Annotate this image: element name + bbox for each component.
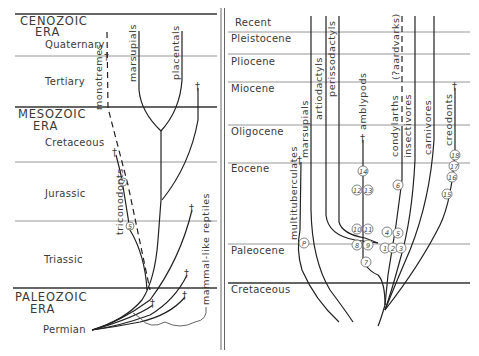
period-triassic: Triassic xyxy=(43,254,83,265)
mammal-phylogeny-diagram: CENOZOIC ERA Quaternary Tertiary MESOZOI… xyxy=(0,0,479,356)
epoch-pliocene: Pliocene xyxy=(231,56,275,67)
marker-16-label: 16 xyxy=(448,174,456,182)
label-insectivores: insectivores xyxy=(402,94,413,158)
left-panel: CENOZOIC ERA Quaternary Tertiary MESOZOI… xyxy=(13,14,217,335)
label-creodonts: creodonts xyxy=(443,93,454,146)
extinct-branch xyxy=(162,88,198,200)
label-perissodactyls: perissodactyls xyxy=(326,20,337,97)
label-triconodonts: triconodonts xyxy=(114,168,125,235)
marsupials-branch xyxy=(139,31,161,131)
placental-root xyxy=(378,305,385,326)
period-permian: Permian xyxy=(43,324,86,335)
marker-13-label: 13 xyxy=(364,187,372,195)
label-carnivores: carnivores xyxy=(422,100,433,155)
era-mesozoic-suffix: ERA xyxy=(33,119,58,133)
marker-4-label: 4 xyxy=(385,229,389,237)
label-monotremes: monotremes xyxy=(93,44,104,110)
marker-3-label: 3 xyxy=(399,245,403,253)
label-condylarths: condylarths xyxy=(389,95,400,157)
label-aardvarks: (?aardvarks) xyxy=(390,13,401,80)
era-paleozoic-suffix: ERA xyxy=(30,302,55,316)
epoch-pleistocene: Pleistocene xyxy=(231,33,291,44)
epoch-eocene: Eocene xyxy=(231,163,269,174)
label-amblypods: amblypods xyxy=(357,72,368,130)
period-cretaceous: Cretaceous xyxy=(45,137,104,148)
epoch-recent: Recent xyxy=(235,17,271,28)
label-artiodactyls: artiodactyls xyxy=(313,57,324,120)
epoch-miocene: Miocene xyxy=(231,83,275,94)
period-jurassic: Jurassic xyxy=(44,188,86,199)
extinction-mark: † xyxy=(189,203,194,214)
marker-6-label: 6 xyxy=(396,182,400,190)
extinction-mark: † xyxy=(182,290,187,301)
marker-1-label: 1 xyxy=(383,245,387,253)
label-marsupials-right: marsupials xyxy=(299,100,310,158)
marker-11-label: 11 xyxy=(364,226,372,234)
extinction-mark: † xyxy=(360,133,365,144)
epoch-paleocene: Paleocene xyxy=(231,245,285,256)
epoch-oligocene: Oligocene xyxy=(231,126,284,137)
marker-12-label: 12 xyxy=(353,187,361,195)
marker-8-label: 8 xyxy=(355,242,359,250)
label-mammal-like-reptiles: mammal-like reptiles xyxy=(200,193,211,305)
marker-5-right-label: 5 xyxy=(396,230,400,238)
marker-2-label: 2 xyxy=(391,245,395,253)
extinction-mark: † xyxy=(452,81,457,92)
extinction-mark: † xyxy=(112,147,117,158)
extinction-mark: † xyxy=(195,81,200,92)
extinction-mark: † xyxy=(184,268,189,279)
extinction-mark: † xyxy=(150,298,155,309)
label-placentals: placentals xyxy=(170,25,181,80)
era-cenozoic-suffix: ERA xyxy=(35,25,60,39)
epoch-cretaceous: Cretaceous xyxy=(231,284,290,295)
label-marsupials: marsupials xyxy=(127,24,138,82)
marker-15-label: 15 xyxy=(443,191,451,199)
extinction-mark: † xyxy=(104,51,109,62)
period-tertiary: Tertiary xyxy=(44,76,85,87)
marker-P-label: P xyxy=(302,240,306,248)
marker-17-label: 17 xyxy=(450,163,459,171)
marker-10-label: 10 xyxy=(353,226,361,234)
numbered-markers: 14 12 13 10 11 8 9 7 4 5 1 2 3 xyxy=(352,150,460,267)
marker-18-label: 18 xyxy=(451,152,459,160)
label-multituberculates: multituberculates xyxy=(288,146,299,240)
marker-5-label: 5 xyxy=(128,223,132,231)
marker-9-label: 9 xyxy=(366,242,370,250)
marker-14-label: 14 xyxy=(359,168,367,176)
right-panel: Recent Pleistocene Pliocene Miocene Olig… xyxy=(228,13,470,326)
